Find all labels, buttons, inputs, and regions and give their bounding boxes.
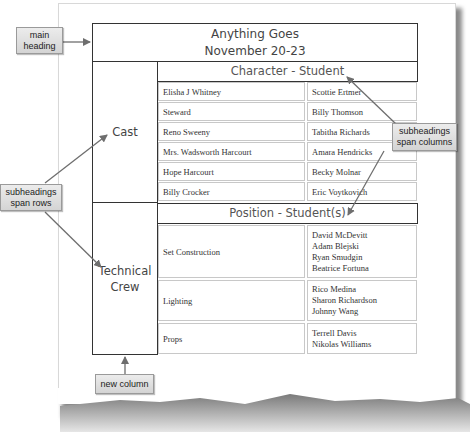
position-students-subheading: Position - Student(s): [157, 203, 418, 224]
cast-rowspan-cell: Cast: [92, 61, 158, 203]
student-name: Nikolas Williams: [312, 339, 371, 350]
callout-subheadings-span-rows: subheadings span rows: [0, 184, 62, 211]
student-name: Johnny Wang: [312, 306, 358, 317]
table-cell-student: Becky Molnar: [307, 162, 417, 181]
table-cell-students: Terrell Davis Nikolas Williams: [307, 323, 417, 354]
torn-paper-edge: [0, 388, 474, 432]
table-cell-character: Billy Crocker: [158, 182, 305, 201]
callout-subheadings-span-columns: subheadings span columns: [392, 123, 457, 151]
table-cell-position: Lighting: [158, 280, 305, 321]
table-cell-character: Reno Sweeny: [158, 122, 305, 141]
table-cell-character: Steward: [158, 102, 305, 121]
technical-crew-rowspan-cell: Technical Crew: [92, 202, 158, 355]
table-cell-character: Elisha J Whitney: [158, 82, 305, 101]
student-name: David McDevitt: [312, 230, 367, 241]
technical-crew-label-line1: Technical: [99, 263, 152, 279]
student-name: Rico Medina: [312, 284, 356, 295]
table-cell-student: Eric Voytkovich: [307, 182, 417, 201]
student-name: Sharon Richardson: [312, 295, 377, 306]
table-cell-student: Billy Thomson: [307, 102, 417, 121]
student-name: Beatrice Fortuna: [312, 263, 369, 274]
student-name: Terrell Davis: [312, 328, 356, 339]
callout-new-column: new column: [95, 374, 154, 394]
character-student-subheading: Character - Student: [157, 61, 418, 82]
technical-crew-label-line2: Crew: [99, 279, 152, 295]
cast-label: Cast: [112, 124, 138, 140]
table-cell-position: Props: [158, 323, 305, 354]
table-cell-students: David McDevitt Adam Blejski Ryan Smudgin…: [307, 225, 417, 278]
table-cell-character: Hope Harcourt: [158, 162, 305, 181]
table-cell-students: Rico Medina Sharon Richardson Johnny Wan…: [307, 280, 417, 321]
main-heading-title: Anything Goes: [93, 26, 417, 43]
table-cell-position: Set Construction: [158, 225, 305, 278]
main-heading-date: November 20-23: [93, 43, 417, 60]
student-name: Adam Blejski: [312, 241, 359, 252]
callout-main-heading: main heading: [16, 27, 63, 54]
table-cell-student: Scottie Ertmer: [307, 82, 417, 101]
student-name: Ryan Smudgin: [312, 252, 362, 263]
table-cell-character: Mrs. Wadsworth Harcourt: [158, 142, 305, 161]
main-heading-cell: Anything Goes November 20-23: [92, 23, 418, 62]
